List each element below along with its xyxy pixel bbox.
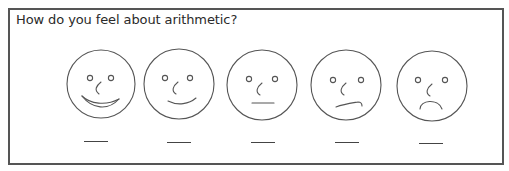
very-happy-face-icon[interactable] bbox=[67, 50, 135, 118]
feeling-scale bbox=[0, 0, 509, 171]
answer-blank-unhappy[interactable] bbox=[335, 142, 359, 143]
happy-face-icon[interactable] bbox=[144, 49, 214, 119]
unhappy-face-icon[interactable] bbox=[311, 50, 381, 120]
answer-blank-very-unhappy[interactable] bbox=[419, 143, 443, 144]
answer-blank-happy[interactable] bbox=[167, 142, 191, 143]
faces-canvas bbox=[0, 0, 509, 171]
neutral-face-icon[interactable] bbox=[227, 50, 297, 120]
very-unhappy-face-icon[interactable] bbox=[397, 51, 467, 121]
answer-blank-neutral[interactable] bbox=[251, 142, 275, 143]
answer-blank-very-happy[interactable] bbox=[84, 141, 108, 142]
